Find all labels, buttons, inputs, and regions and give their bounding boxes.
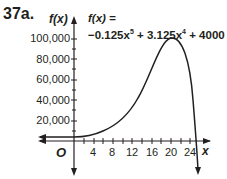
- chart-plot: [0, 0, 227, 179]
- function-curve: [40, 38, 198, 170]
